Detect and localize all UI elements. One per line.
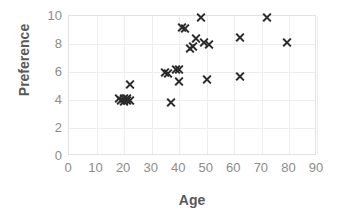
data-point-marker — [124, 79, 135, 90]
plot-area — [68, 15, 316, 155]
y-tick-label: 4 — [32, 93, 62, 106]
data-point-marker — [165, 97, 176, 108]
x-tick-label: 0 — [53, 161, 83, 174]
gridline-vertical — [207, 16, 208, 154]
y-axis-title: Preference — [16, 0, 32, 130]
x-tick-label: 20 — [108, 161, 138, 174]
gridline-vertical — [179, 16, 180, 154]
y-tick-label: 10 — [32, 9, 62, 22]
gridline-vertical — [152, 16, 153, 154]
gridline-vertical — [262, 16, 263, 154]
data-point-marker — [190, 33, 201, 44]
y-tick-label: 8 — [32, 37, 62, 50]
x-tick-label: 80 — [273, 161, 303, 174]
x-tick-label: 70 — [246, 161, 276, 174]
scatter-chart: Preference Age 0246810 01020304050607080… — [0, 0, 340, 223]
x-tick-label: 10 — [81, 161, 111, 174]
x-axis-title: Age — [68, 192, 316, 208]
gridline-vertical — [289, 16, 290, 154]
data-point-marker — [113, 93, 124, 104]
gridline-horizontal — [69, 44, 315, 45]
gridline-vertical — [234, 16, 235, 154]
data-point-marker — [163, 68, 174, 79]
gridline-vertical — [317, 16, 318, 154]
gridline-vertical — [124, 16, 125, 154]
data-point-marker — [188, 41, 199, 52]
data-point-marker — [179, 23, 190, 34]
data-point-marker — [281, 37, 292, 48]
x-tick-label: 50 — [191, 161, 221, 174]
y-tick-label: 2 — [32, 121, 62, 134]
data-point-marker — [171, 64, 182, 75]
y-tick-label: 6 — [32, 65, 62, 78]
gridline-horizontal — [69, 100, 315, 101]
data-point-marker — [234, 32, 245, 43]
x-tick-label: 30 — [136, 161, 166, 174]
gridline-vertical — [97, 16, 98, 154]
gridline-horizontal — [69, 72, 315, 73]
data-point-marker — [176, 22, 187, 33]
data-point-marker — [121, 93, 132, 104]
x-tick-label: 90 — [301, 161, 331, 174]
x-tick-label: 60 — [218, 161, 248, 174]
x-tick-label: 40 — [163, 161, 193, 174]
data-point-marker — [199, 37, 210, 48]
gridline-horizontal — [69, 128, 315, 129]
data-point-marker — [262, 12, 273, 23]
data-point-marker — [196, 12, 207, 23]
